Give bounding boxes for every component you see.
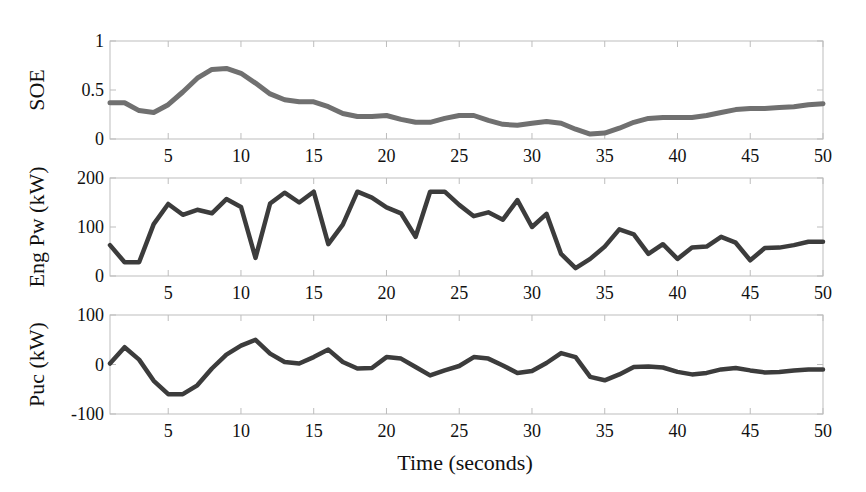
x-tick-label: 20 xyxy=(377,283,395,303)
eng-pw-axes-frame xyxy=(110,178,823,276)
x-tick-label: 45 xyxy=(741,146,759,166)
x-tick-label: 40 xyxy=(668,283,686,303)
x-tick-label: 45 xyxy=(741,421,759,441)
y-tick-label: 200 xyxy=(77,168,104,188)
x-tick-label: 15 xyxy=(305,146,323,166)
y-tick-label: 0.5 xyxy=(82,80,105,100)
x-tick-label: 25 xyxy=(450,421,468,441)
y-tick-label: 1 xyxy=(95,31,104,51)
x-tick-label: 25 xyxy=(450,146,468,166)
x-tick-label: 30 xyxy=(523,421,541,441)
x-tick-label: 35 xyxy=(596,421,614,441)
eng-pw-series-line xyxy=(110,192,823,269)
y-tick-label: 100 xyxy=(77,305,104,325)
puc-y-axis-title: Puc (kW) xyxy=(24,322,49,407)
x-tick-label: 25 xyxy=(450,283,468,303)
soe-series-line xyxy=(110,68,823,134)
x-tick-label: 15 xyxy=(305,283,323,303)
y-tick-label: 100 xyxy=(77,217,104,237)
x-tick-label: 20 xyxy=(377,146,395,166)
puc-series-line xyxy=(110,340,823,394)
x-tick-label: 45 xyxy=(741,283,759,303)
x-tick-label: 5 xyxy=(164,421,173,441)
x-tick-label: 50 xyxy=(814,283,832,303)
x-tick-label: 30 xyxy=(523,283,541,303)
x-tick-label: 35 xyxy=(596,283,614,303)
soe-axes-frame xyxy=(110,41,823,139)
x-tick-label: 5 xyxy=(164,283,173,303)
x-tick-label: 10 xyxy=(232,283,250,303)
x-tick-label: 30 xyxy=(523,146,541,166)
x-tick-label: 50 xyxy=(814,146,832,166)
x-tick-label: 10 xyxy=(232,421,250,441)
x-tick-label: 40 xyxy=(668,146,686,166)
x-tick-label: 50 xyxy=(814,421,832,441)
puc-panel: 5101520253035404550-1000100Puc (kW) xyxy=(24,305,832,441)
y-tick-label: 0 xyxy=(95,266,104,286)
eng-pw-y-axis-title: Eng Pw (kW) xyxy=(24,167,49,288)
y-tick-label: 0 xyxy=(95,129,104,149)
x-axis-title: Time (seconds) xyxy=(397,450,532,475)
x-tick-label: 20 xyxy=(377,421,395,441)
soe-panel: 510152025303540455000.51SOE xyxy=(24,31,832,166)
x-tick-label: 40 xyxy=(668,421,686,441)
x-tick-label: 5 xyxy=(164,146,173,166)
y-tick-label: -100 xyxy=(71,404,104,424)
y-tick-label: 0 xyxy=(95,355,104,375)
chart-figure: 510152025303540455000.51SOE5101520253035… xyxy=(0,0,866,492)
soe-y-axis-title: SOE xyxy=(24,69,49,111)
eng-pw-panel: 51015202530354045500100200Eng Pw (kW) xyxy=(24,167,832,303)
x-tick-label: 10 xyxy=(232,146,250,166)
chart-panels: 510152025303540455000.51SOE5101520253035… xyxy=(24,31,832,441)
x-tick-label: 35 xyxy=(596,146,614,166)
x-tick-label: 15 xyxy=(305,421,323,441)
